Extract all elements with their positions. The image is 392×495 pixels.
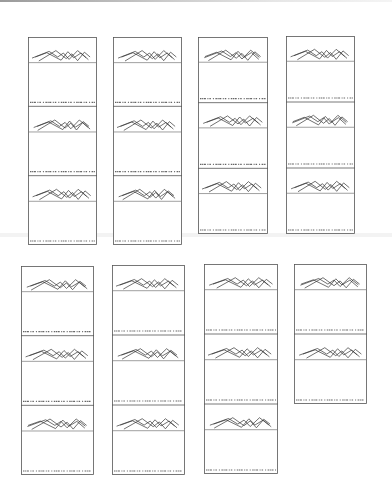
- waveform-trace: [213, 279, 271, 288]
- waveform-trace: [122, 190, 175, 199]
- panel-plot: [204, 264, 278, 474]
- waveform-trace: [303, 349, 360, 358]
- waveform-trace: [294, 50, 347, 59]
- panel-plot: [198, 37, 268, 234]
- waveform-trace: [36, 190, 89, 199]
- plot-panel: [204, 264, 278, 474]
- plot-panel: [112, 265, 185, 475]
- waveform-trace: [29, 351, 86, 359]
- plot-panel: [113, 37, 182, 245]
- panel-plot: [113, 37, 182, 245]
- panel-plot: [21, 266, 94, 475]
- waveform-trace: [122, 52, 175, 61]
- waveform-trace: [206, 183, 260, 192]
- waveform-trace: [295, 182, 348, 191]
- scan-edge: [0, 0, 392, 2]
- panel-plot: [112, 265, 185, 475]
- waveform-trace: [122, 350, 179, 359]
- waveform-trace: [35, 52, 88, 61]
- waveform-trace: [120, 121, 173, 130]
- plot-panel: [198, 37, 268, 234]
- waveform-trace: [120, 280, 177, 289]
- panel-plot: [28, 37, 97, 245]
- waveform-trace: [214, 419, 272, 428]
- waveform-trace: [212, 349, 270, 358]
- panel-plot: [294, 264, 367, 404]
- waveform-trace: [37, 121, 90, 130]
- waveform-trace: [120, 420, 177, 429]
- plot-panel: [294, 264, 367, 404]
- plot-panel: [21, 266, 94, 475]
- waveform-trace: [31, 281, 88, 290]
- waveform-trace: [207, 117, 261, 126]
- plot-panel: [28, 37, 97, 245]
- plot-panel: [286, 36, 355, 234]
- panel-plot: [286, 36, 355, 234]
